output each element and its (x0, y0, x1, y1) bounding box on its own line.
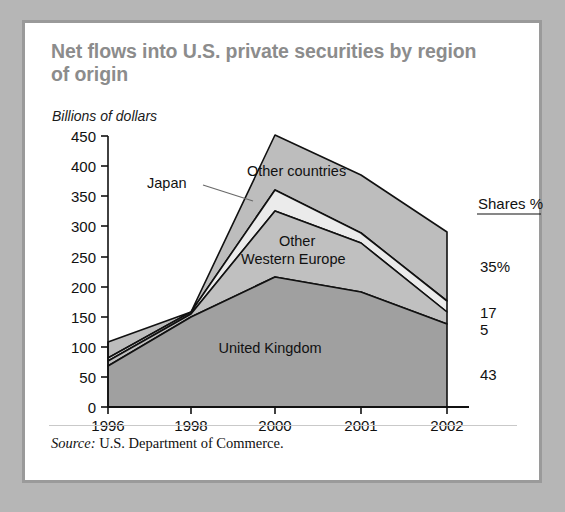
y-tick-labels: 450 400 350 300 250 200 150 100 50 0 (71, 128, 96, 416)
y-tick-label: 200 (71, 279, 96, 296)
source-note: Source: U.S. Department of Commerce. (51, 435, 284, 452)
share-value-other-western-europe: 5 (480, 321, 488, 338)
share-value-other-countries: 35% (480, 258, 510, 275)
y-tick-label: 100 (71, 339, 96, 356)
y-tick-label: 0 (88, 399, 96, 416)
y-tick-label: 350 (71, 188, 96, 205)
chart-card: Net flows into U.S. private securities b… (22, 20, 542, 483)
japan-leader: Japan (147, 175, 253, 201)
screenshot-root: Net flows into U.S. private securities b… (0, 0, 565, 512)
y-tick-label: 400 (71, 158, 96, 175)
band-label-japan: Japan (147, 175, 187, 191)
chart-plot-area: 450 400 350 300 250 200 150 100 50 0 199… (25, 23, 545, 486)
band-label-other-we-bottom: Western Europe (241, 251, 346, 267)
shares-column: Shares % 35% 17 5 43 (477, 195, 543, 383)
source-label: Source: (51, 435, 96, 451)
y-tick-label: 50 (79, 369, 96, 386)
y-axis (101, 136, 108, 407)
band-label-other-countries: Other countries (247, 163, 346, 179)
x-axis (108, 407, 469, 414)
shares-header: Shares % (478, 195, 543, 212)
footer-divider (49, 425, 517, 426)
y-tick-label: 450 (71, 128, 96, 145)
source-text: U.S. Department of Commerce. (96, 435, 284, 451)
share-value-japan: 17 (480, 304, 497, 321)
share-value-united-kingdom: 43 (480, 366, 497, 383)
band-label-other-we-top: Other (279, 233, 315, 249)
band-label-united-kingdom: United Kingdom (218, 340, 321, 356)
area-chart-svg: 450 400 350 300 250 200 150 100 50 0 199… (25, 23, 545, 433)
y-tick-label: 250 (71, 249, 96, 266)
y-tick-label: 300 (71, 218, 96, 235)
y-tick-label: 150 (71, 309, 96, 326)
